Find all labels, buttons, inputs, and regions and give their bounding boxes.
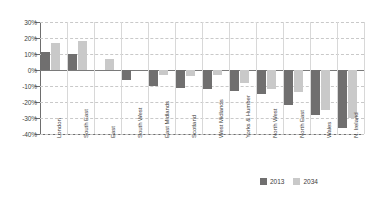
bar-group — [202, 22, 229, 134]
legend-item[interactable]: 2013 — [260, 178, 284, 185]
y-axis-tick-label: 30% — [5, 19, 37, 26]
y-axis-tick-label: -40% — [5, 131, 37, 138]
bar-2034 — [159, 70, 168, 75]
y-axis-tick-label: 20% — [5, 35, 37, 42]
bar-chart: 30%20%10%0%-10%-20%-30%-40% LondonSouth … — [0, 0, 378, 210]
bar-2034 — [240, 70, 249, 83]
bar-group — [175, 22, 202, 134]
bar-group — [121, 22, 148, 134]
bar-group — [40, 22, 67, 134]
bar-2013 — [176, 70, 185, 88]
category-label: Wales — [326, 122, 332, 138]
category-label: London — [56, 118, 62, 138]
y-axis-tick-label: -20% — [5, 99, 37, 106]
bar-2034 — [267, 70, 276, 89]
gridline-vertical — [364, 22, 365, 134]
bar-2013 — [311, 70, 320, 115]
category-label: North East — [299, 110, 305, 138]
y-axis-tick-label: -10% — [5, 83, 37, 90]
bar-2034 — [294, 70, 303, 92]
bar-group — [283, 22, 310, 134]
legend-swatch-icon — [293, 178, 300, 185]
category-label: South West — [137, 108, 143, 138]
bar-2034 — [321, 70, 330, 110]
bar-2034 — [78, 41, 87, 70]
y-axis-tick-label: -30% — [5, 115, 37, 122]
y-axis-tick-label: 10% — [5, 51, 37, 58]
legend-swatch-icon — [260, 178, 267, 185]
bar-2034 — [51, 43, 60, 70]
bar-2013 — [257, 70, 266, 94]
bar-group — [148, 22, 175, 134]
legend-label: 2013 — [270, 178, 284, 185]
y-axis-tick-label: 0% — [5, 67, 37, 74]
category-label: N. Ireland — [353, 112, 359, 138]
chart-legend: 20132034 — [260, 178, 327, 185]
bar-group — [229, 22, 256, 134]
bar-2013 — [230, 70, 239, 91]
category-label: East — [110, 126, 116, 138]
category-label: South East — [83, 109, 89, 138]
bar-group — [310, 22, 337, 134]
category-label: Yorks & Humber — [245, 95, 251, 138]
bar-2013 — [338, 70, 347, 128]
bar-group — [256, 22, 283, 134]
bar-2013 — [122, 70, 131, 80]
bar-2013 — [284, 70, 293, 105]
bar-group — [337, 22, 364, 134]
legend-item[interactable]: 2034 — [293, 178, 317, 185]
bar-2034 — [348, 70, 357, 118]
bar-2013 — [68, 54, 77, 70]
bar-group — [67, 22, 94, 134]
bar-2034 — [213, 70, 222, 75]
category-label: East Midlands — [164, 101, 170, 138]
bar-2013 — [41, 52, 50, 70]
legend-label: 2034 — [303, 178, 317, 185]
bar-2013 — [203, 70, 212, 89]
category-label: North West — [272, 109, 278, 138]
category-label: Scotland — [191, 115, 197, 138]
bar-2013 — [149, 70, 158, 86]
bar-2034 — [105, 59, 114, 70]
category-label: West Midlands — [218, 99, 224, 138]
bar-group — [94, 22, 121, 134]
bar-2034 — [186, 70, 195, 76]
